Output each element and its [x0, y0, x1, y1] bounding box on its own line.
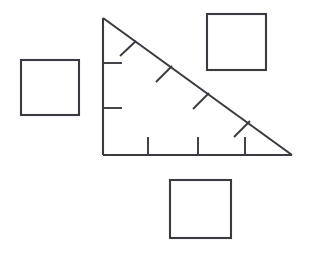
hypotenuse-tick-4 — [234, 121, 250, 137]
triangle-hypotenuse — [103, 18, 292, 155]
square-bottom — [170, 180, 231, 238]
figure-canvas — [0, 0, 309, 259]
hypotenuse-tick-2 — [156, 66, 172, 82]
hypotenuse-tick-1 — [120, 41, 136, 56]
hypotenuse-tick-3 — [193, 93, 209, 109]
geometry-figure — [0, 0, 309, 259]
square-left — [21, 60, 79, 115]
square-top-right — [207, 14, 266, 70]
